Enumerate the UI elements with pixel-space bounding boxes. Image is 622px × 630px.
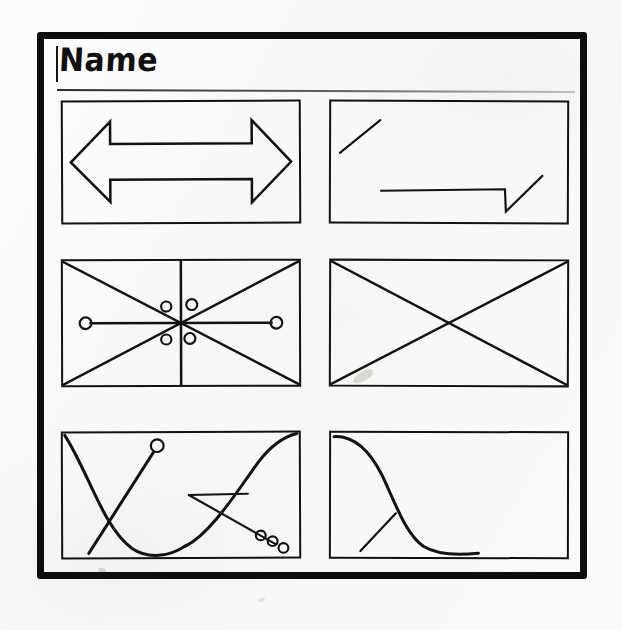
panel-grid <box>58 99 574 569</box>
outer-sketch-frame: Name <box>37 32 587 579</box>
sigmoid-decay-curve-sketch <box>331 433 567 557</box>
curves-and-node-trail-sketch <box>63 433 299 558</box>
header-divider <box>57 89 575 93</box>
double-headed-arrow-icon <box>63 101 300 222</box>
diagonal-and-tick-sketch <box>331 102 567 223</box>
header: Name <box>56 45 576 99</box>
sketch-panel-crossed-box-with-nodes[interactable] <box>61 259 301 388</box>
page-title: Name <box>58 42 159 79</box>
sketch-panel-empty-placeholder[interactable] <box>329 259 569 388</box>
sketch-panel-sigmoid-curve[interactable] <box>329 431 569 560</box>
crossed-box-with-nodes-sketch <box>63 261 299 386</box>
sketch-panel-double-headed-arrow[interactable] <box>61 99 302 224</box>
sketch-panel-diagonal-and-tick[interactable] <box>329 100 569 225</box>
sketch-panel-curves-and-node-trail[interactable] <box>61 431 301 560</box>
pencil-smudge-bottom <box>258 597 266 602</box>
image-placeholder-x-icon <box>331 261 567 386</box>
